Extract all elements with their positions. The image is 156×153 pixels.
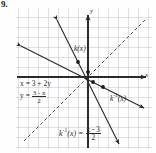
problem-number: 9. (1, 0, 7, 9)
coordinate-graph: x y k(x) k-1(x) x = 3 + 2y y = 3 - x 2 k… (16, 8, 152, 149)
graph-svg (16, 8, 152, 149)
plot-background (16, 8, 152, 149)
figure-root: 9. (0, 0, 156, 153)
